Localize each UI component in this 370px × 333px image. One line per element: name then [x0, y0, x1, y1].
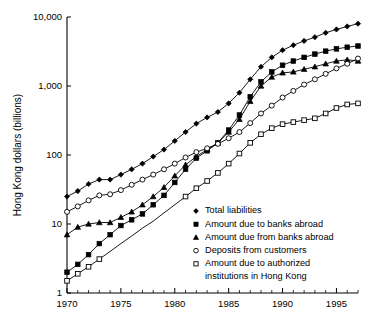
data-point — [140, 212, 145, 217]
data-point — [312, 77, 317, 82]
data-point — [65, 270, 70, 275]
data-point — [280, 63, 285, 68]
data-point — [291, 59, 296, 64]
data-point — [97, 241, 102, 246]
data-point — [75, 271, 80, 276]
legend-marker-filled-triangle — [193, 235, 198, 240]
y-axis-title: Hong Kong dollars (billions) — [12, 94, 23, 216]
data-point — [129, 167, 134, 172]
data-point — [65, 209, 70, 214]
data-point — [259, 111, 264, 116]
data-point — [237, 151, 242, 156]
data-point — [129, 218, 134, 223]
chart-legend: Total liabilitiesAmount due to banks abr… — [193, 205, 333, 281]
legend-marker-open-circle — [194, 248, 199, 253]
data-point — [194, 186, 199, 191]
chart-container: 10,0001,00010010119701975198019851990199… — [0, 0, 370, 333]
x-tick-label: 1970 — [56, 298, 77, 309]
data-point — [356, 56, 361, 61]
y-tick-label: 1,000 — [38, 80, 62, 91]
legend-label: institutions in Hong Kong — [205, 271, 307, 281]
data-point — [172, 180, 177, 185]
data-point — [269, 126, 274, 131]
data-point — [248, 141, 253, 146]
data-point — [323, 49, 328, 54]
data-point — [345, 61, 350, 66]
legend-label: Amount due from banks abroad — [205, 232, 334, 242]
data-point — [86, 264, 91, 269]
data-point — [355, 21, 360, 26]
data-point — [151, 202, 156, 207]
data-point — [205, 146, 210, 151]
data-point — [86, 198, 91, 203]
legend-label: Amount due to authorized — [205, 258, 310, 268]
legend-marker-filled-square — [194, 222, 198, 226]
data-point — [75, 188, 80, 193]
data-point — [334, 27, 339, 32]
data-point — [356, 44, 361, 49]
legend-label: Amount due to banks abroad — [205, 219, 323, 229]
data-point — [140, 177, 145, 182]
axis-titles: Hong Kong dollars (billions) — [12, 94, 23, 216]
data-point — [205, 179, 210, 184]
data-point — [291, 43, 296, 48]
data-point — [119, 223, 124, 228]
data-point — [302, 55, 307, 60]
data-point — [151, 172, 156, 177]
data-point — [269, 103, 274, 108]
data-point — [75, 262, 80, 267]
data-point — [108, 177, 113, 182]
data-point — [64, 232, 70, 237]
legend-marker-open-square — [194, 262, 198, 266]
line-chart: 10,0001,00010010119701975198019851990199… — [0, 0, 370, 333]
y-tick-label: 1 — [57, 287, 62, 298]
data-point — [237, 130, 242, 135]
data-point — [248, 121, 253, 126]
legend-label: Deposits from customers — [205, 245, 307, 255]
data-point — [162, 193, 167, 198]
data-point — [108, 192, 113, 197]
data-point — [86, 181, 91, 186]
y-tick-label: 10,000 — [33, 11, 62, 22]
data-point — [129, 209, 135, 214]
data-point — [64, 194, 69, 199]
legend-marker-filled-diamond — [194, 209, 199, 214]
y-tick-label: 100 — [46, 149, 62, 160]
data-point — [97, 177, 102, 182]
data-point — [118, 188, 123, 193]
series-3 — [65, 56, 361, 214]
data-point — [65, 279, 70, 284]
data-point — [118, 215, 124, 220]
data-point — [226, 136, 231, 141]
data-point — [97, 257, 102, 262]
data-point — [280, 122, 285, 127]
x-tick-label: 1975 — [110, 298, 131, 309]
x-tick-label: 1980 — [164, 298, 185, 309]
data-point — [334, 106, 339, 111]
data-point — [259, 132, 264, 137]
data-point — [356, 101, 361, 106]
data-series — [64, 21, 361, 283]
data-point — [345, 45, 350, 50]
data-point — [183, 167, 188, 172]
series-0 — [64, 21, 360, 199]
data-point — [162, 167, 167, 172]
legend-label: Total liabilities — [205, 205, 262, 215]
data-point — [312, 35, 317, 40]
data-point — [302, 118, 307, 123]
data-point — [183, 194, 188, 199]
data-point — [129, 182, 134, 187]
data-point — [118, 172, 123, 177]
data-point — [345, 102, 350, 107]
data-point — [323, 71, 328, 76]
data-point — [183, 155, 188, 160]
data-point — [302, 82, 307, 87]
data-point — [194, 150, 199, 155]
data-point — [345, 24, 350, 29]
data-point — [140, 161, 145, 166]
x-tick-label: 1990 — [272, 298, 293, 309]
data-point — [215, 141, 220, 146]
data-point — [205, 115, 210, 120]
data-point — [313, 116, 318, 121]
data-point — [86, 252, 91, 257]
